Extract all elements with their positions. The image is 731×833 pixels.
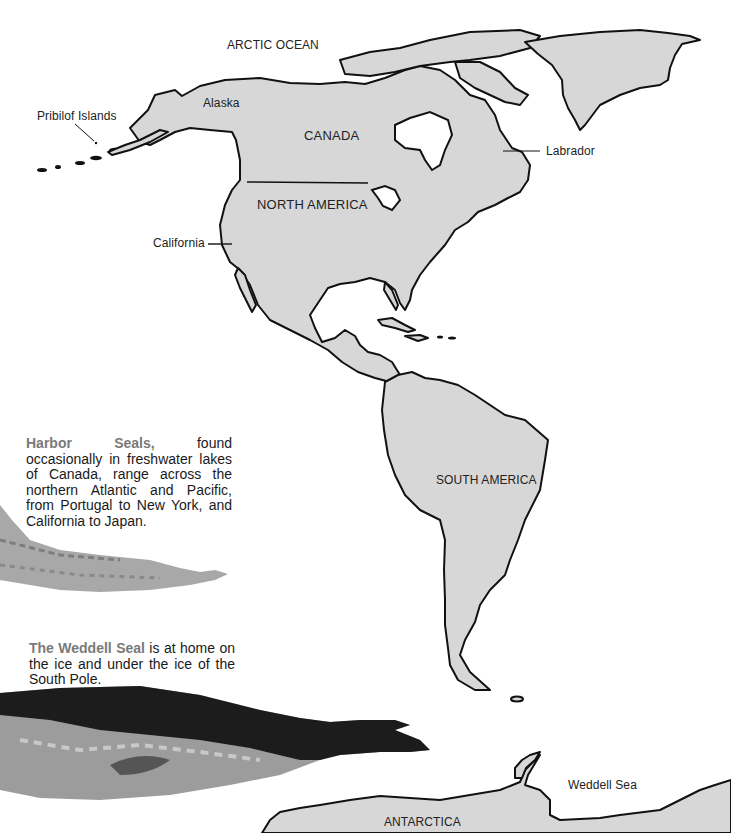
harbor-seal-caption: Harbor Seals, found occasionally in fres…: [26, 436, 232, 529]
north-america-landmass: [130, 66, 530, 382]
label-alaska: Alaska: [203, 96, 240, 110]
label-arctic-ocean: ARCTIC OCEAN: [227, 38, 319, 52]
label-canada: CANADA: [304, 128, 359, 143]
label-labrador: Labrador: [546, 144, 595, 158]
label-california: California: [153, 236, 205, 250]
greenland: [525, 30, 700, 130]
map-canvas: [0, 0, 731, 833]
weddell-seal-illustration: [0, 686, 430, 800]
weddell-seal-caption-highlight: The Weddell Seal: [29, 640, 145, 656]
label-weddell-sea: Weddell Sea: [568, 778, 637, 792]
weddell-seal-caption: The Weddell Seal is at home on the ice a…: [29, 641, 235, 688]
harbor-seal-caption-highlight: Harbor Seals,: [26, 435, 155, 451]
canada-us-border: [247, 182, 368, 183]
falkland-islands: [511, 697, 523, 702]
label-pribilof-islands: Pribilof Islands: [37, 109, 117, 123]
label-antarctica: ANTARCTICA: [384, 815, 461, 829]
label-south-america: SOUTH AMERICA: [436, 473, 537, 487]
label-north-america: NORTH AMERICA: [257, 197, 368, 212]
antarctica-landmass: [262, 755, 731, 833]
pribilof-pointer: [75, 124, 94, 141]
caribbean-islands: [378, 318, 456, 341]
south-america-landmass: [382, 372, 548, 690]
aleutian-islands: [37, 142, 121, 172]
